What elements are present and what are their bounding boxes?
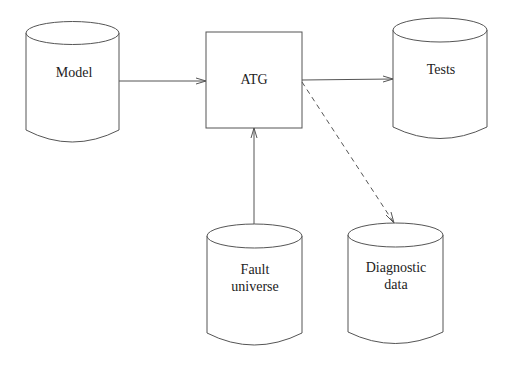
node-label-atg: ATG <box>240 72 267 87</box>
node-diagnostic-data: Diagnostic data <box>348 223 443 344</box>
edge-atg-to-tests <box>302 76 393 82</box>
node-label-diag-line1: Diagnostic <box>366 260 427 275</box>
node-fault-universe: Fault universe <box>207 224 302 345</box>
arrowhead-icon <box>386 212 394 223</box>
node-label-model: Model <box>56 65 93 80</box>
edge-atg-to-diagnostic <box>302 82 394 223</box>
cylinder-top <box>393 18 487 42</box>
node-label-fault-line1: Fault <box>241 262 270 277</box>
node-atg: ATG <box>206 32 302 128</box>
cylinder-top <box>26 22 119 45</box>
node-label-fault-line2: universe <box>231 279 278 294</box>
diagram-canvas: Model ATG Tests Fault universe Diagnosti… <box>0 0 513 369</box>
edge-model-to-atg <box>119 78 206 84</box>
cylinder-top <box>348 223 443 247</box>
node-label-diag-line2: data <box>384 277 408 292</box>
node-tests: Tests <box>393 18 487 139</box>
cylinder-icon <box>393 30 487 139</box>
cylinder-top <box>207 224 302 248</box>
cylinder-icon <box>26 33 119 142</box>
node-model: Model <box>26 22 119 143</box>
edge-fault-to-atg <box>251 128 257 224</box>
node-label-tests: Tests <box>427 62 456 77</box>
